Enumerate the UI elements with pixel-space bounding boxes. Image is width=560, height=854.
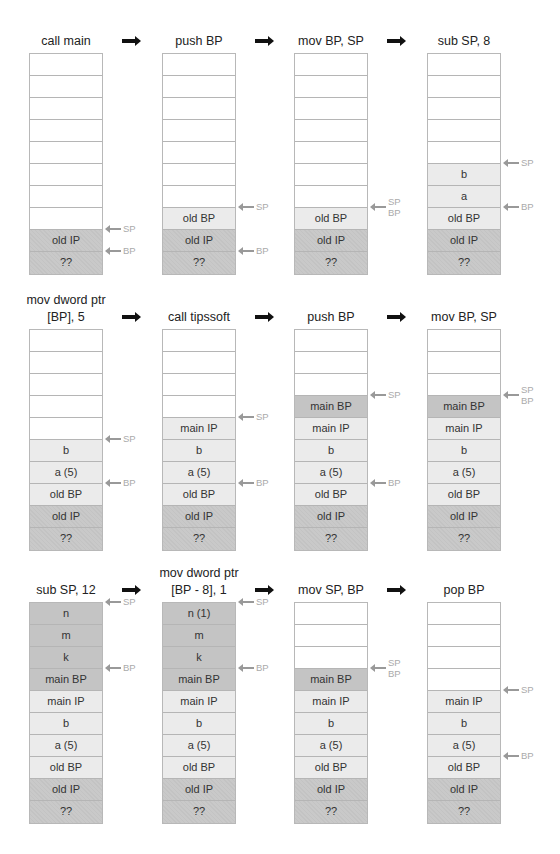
- stack-cell: [428, 120, 500, 142]
- step-title: mov dword ptr: [16, 292, 116, 309]
- stack-box: baold BPold IP??: [427, 53, 501, 275]
- stack-cell: [295, 647, 367, 669]
- stack-cell: [295, 186, 367, 208]
- stack-cell: old IP: [295, 506, 367, 528]
- stack-cell: a (5): [428, 462, 500, 484]
- pointer-label: SP: [123, 596, 136, 607]
- flow-arrow-icon: [387, 39, 401, 43]
- pointer-sp-bp: SPBP: [374, 196, 401, 218]
- stack-cell: old IP: [163, 779, 235, 801]
- pointer-sp-bp: SPBP: [507, 384, 534, 406]
- stack-cell: n: [30, 603, 102, 625]
- stack-cell: b: [163, 713, 235, 735]
- pointer-arrow-icon: [507, 206, 519, 208]
- step-title: mov SP, BP: [281, 582, 381, 599]
- stack-cell: [428, 647, 500, 669]
- pointer-label: BP: [521, 201, 534, 212]
- stack-cell: a (5): [163, 735, 235, 757]
- stack-cell: [163, 54, 235, 76]
- pointer-label: BP: [123, 477, 136, 488]
- stack-cell: main IP: [30, 691, 102, 713]
- stack-cell: a (5): [30, 735, 102, 757]
- step-title: mov BP, SP: [281, 33, 381, 50]
- stack-cell: ??: [428, 801, 500, 823]
- stack-cell: [295, 142, 367, 164]
- stack-cell: a (5): [163, 462, 235, 484]
- pointer-sp-bp: SPBP: [374, 657, 401, 679]
- pointer-sp: SP: [109, 223, 136, 234]
- stack-cell: ??: [163, 252, 235, 274]
- stack-cell: ??: [163, 528, 235, 550]
- stack-cell: [295, 54, 367, 76]
- pointer-label: BP: [256, 245, 269, 256]
- step-title: mov BP, SP: [414, 309, 514, 326]
- pointer-label: SP: [256, 596, 269, 607]
- stack-box: main IPba (5)old BPold IP??: [162, 329, 236, 551]
- pointer-label: BP: [521, 395, 534, 406]
- pointer-sp: SP: [242, 411, 269, 422]
- stack-cell: old BP: [30, 757, 102, 779]
- stack-cell: ??: [30, 528, 102, 550]
- stack-cell: old BP: [163, 757, 235, 779]
- stack-cell: a (5): [295, 735, 367, 757]
- stack-cell: ??: [30, 252, 102, 274]
- stack-cell: [428, 98, 500, 120]
- stack-cell: main IP: [428, 418, 500, 440]
- flow-arrow-icon: [255, 588, 269, 592]
- step-title: call tipssoft: [149, 309, 249, 326]
- stack-cell: [30, 186, 102, 208]
- step-title: [BP], 5: [16, 309, 116, 326]
- stack-cell: [163, 142, 235, 164]
- stack-cell: old BP: [428, 484, 500, 506]
- pointer-arrow-icon: [507, 162, 519, 164]
- stack-cell: [428, 625, 500, 647]
- stack-box: main IPba (5)old BPold IP??: [427, 602, 501, 824]
- stack-cell: ??: [295, 528, 367, 550]
- stack-cell: old BP: [163, 484, 235, 506]
- pointer-arrow-icon: [374, 394, 386, 396]
- stack-cell: a: [428, 186, 500, 208]
- stack-cell: [30, 54, 102, 76]
- step-title: mov dword ptr: [149, 565, 249, 582]
- pointer-arrow-icon: [507, 755, 519, 757]
- step-title: push BP: [149, 33, 249, 50]
- pointer-bp: BP: [242, 662, 269, 673]
- pointer-bp: BP: [242, 245, 269, 256]
- stack-cell: [428, 374, 500, 396]
- pointer-label: BP: [521, 750, 534, 761]
- stack-cell: old IP: [30, 506, 102, 528]
- stack-box: nmkmain BPmain IPba (5)old BPold IP??: [29, 602, 103, 824]
- stack-cell: old IP: [428, 779, 500, 801]
- stack-cell: [30, 396, 102, 418]
- pointer-sp: SP: [507, 157, 534, 168]
- stack-cell: [295, 625, 367, 647]
- pointer-bp: BP: [242, 477, 269, 488]
- stack-cell: [30, 208, 102, 230]
- stack-cell: m: [163, 625, 235, 647]
- pointer-label: BP: [388, 207, 401, 218]
- stack-cell: k: [163, 647, 235, 669]
- stack-cell: k: [30, 647, 102, 669]
- stack-cell: [163, 374, 235, 396]
- pointer-bp: BP: [374, 477, 401, 488]
- stack-cell: n (1): [163, 603, 235, 625]
- pointer-arrow-icon: [242, 206, 254, 208]
- pointer-sp: SP: [109, 596, 136, 607]
- pointer-label: SP: [388, 389, 401, 400]
- step-title: [BP - 8], 1: [149, 582, 249, 599]
- pointer-bp: BP: [507, 750, 534, 761]
- stack-cell: [163, 186, 235, 208]
- pointer-label: SP: [388, 196, 401, 207]
- stack-cell: [163, 76, 235, 98]
- pointer-arrow-icon: [109, 438, 121, 440]
- flow-arrow-icon: [122, 588, 136, 592]
- stack-cell: b: [30, 713, 102, 735]
- pointer-label: BP: [123, 245, 136, 256]
- step-title: pop BP: [414, 582, 514, 599]
- pointer-bp: BP: [109, 477, 136, 488]
- pointer-arrow-icon: [242, 601, 254, 603]
- stack-cell: [30, 76, 102, 98]
- pointer-arrow-icon: [242, 416, 254, 418]
- stack-cell: b: [30, 440, 102, 462]
- pointer-arrow-icon: [109, 228, 121, 230]
